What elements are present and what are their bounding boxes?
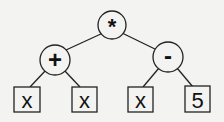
edge-plus-leaf1: [30, 70, 46, 87]
minus-label: -: [164, 42, 172, 69]
edge-root-minus: [122, 33, 157, 50]
node-plus: +: [40, 45, 70, 75]
leaf3-label: x: [135, 88, 146, 113]
leaf2-label: x: [79, 88, 90, 113]
node-leaf4: 5: [185, 86, 210, 113]
node-root: *: [98, 11, 126, 39]
plus-label: +: [48, 46, 62, 73]
edge-plus-leaf2: [64, 70, 80, 87]
edge-minus-leaf3: [143, 68, 159, 87]
edge-root-plus: [66, 33, 103, 50]
node-leaf1: x: [14, 87, 40, 113]
root-label: *: [108, 14, 117, 39]
node-leaf2: x: [72, 87, 97, 113]
edge-minus-leaf4: [177, 68, 193, 87]
node-leaf3: x: [128, 87, 153, 113]
leaf1-label: x: [22, 88, 33, 113]
leaf4-label: 5: [191, 88, 203, 113]
expression-tree-diagram: * + - x x x 5: [0, 0, 224, 122]
node-minus: -: [153, 42, 183, 72]
